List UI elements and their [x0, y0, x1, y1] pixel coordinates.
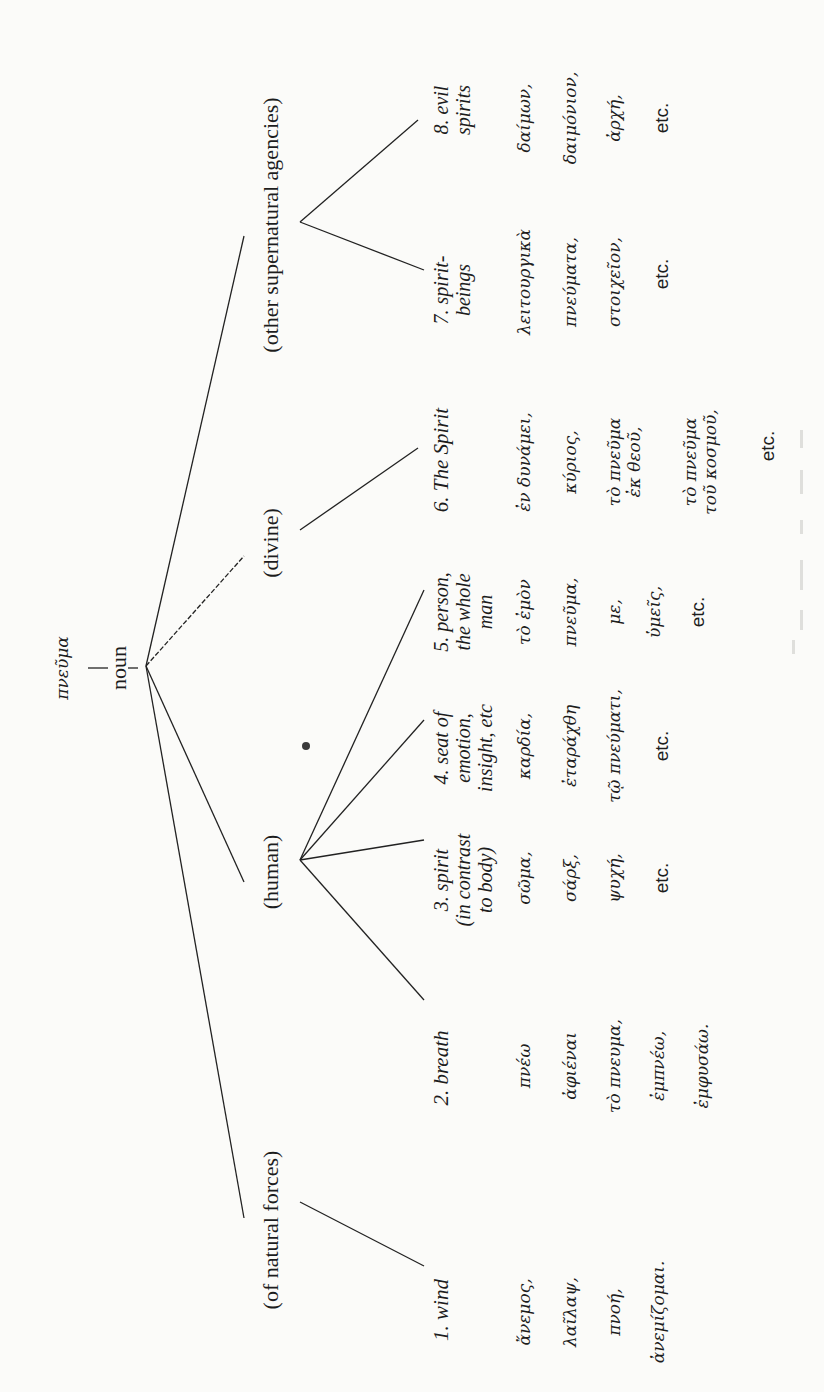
- word: ἀρχή,: [604, 94, 624, 141]
- word: ἀφιέναι: [560, 1032, 580, 1100]
- branch-sense-2: [300, 860, 424, 1000]
- word: πνεύματα,: [560, 237, 580, 328]
- word: δαίμων,: [514, 83, 534, 152]
- word: τὸ πνεῦμα: [680, 417, 700, 506]
- sense-3-words: σῶμα, σάρξ, ψυχή, etc.: [514, 851, 672, 904]
- word-etc: etc.: [651, 259, 672, 290]
- word: πνοή,: [604, 1288, 624, 1336]
- word: ἐμφυσάω.: [692, 1024, 712, 1109]
- word: κύριος,: [560, 430, 580, 494]
- group-divine: (divine): [258, 508, 283, 578]
- word: ψυχή,: [604, 853, 624, 903]
- sense-3-label-line-1: 3. spirit: [430, 848, 453, 912]
- branch-human: [146, 666, 244, 882]
- word: ἐν δυνάμει,: [514, 412, 534, 512]
- branch-sense-6: [300, 448, 418, 530]
- bleed-through-marks: [792, 430, 803, 654]
- branch-natural-forces: [146, 666, 244, 1218]
- sense-5-label-line-3: man: [474, 595, 496, 629]
- sense-6-words: ἐν δυνάμει, κύριος, τὸ πνεῦμα ἐκ θεοῦ, τ…: [514, 409, 778, 514]
- semantic-tree-diagram: πνεῦμα noun (of natural forces) (human) …: [0, 0, 824, 1392]
- word: ἐμπνέω,: [648, 1031, 668, 1101]
- sense-7-words: λειτουργικὰ πνεύματα, στοιχεῖον, etc.: [514, 228, 672, 336]
- branch-sense-8: [300, 120, 418, 222]
- group-natural-forces: (of natural forces): [258, 1151, 283, 1310]
- branch-sense-4: [300, 720, 424, 860]
- sense-5-label-line-1: 5. person,: [430, 572, 453, 651]
- sense-1-label: 1. wind: [429, 1279, 453, 1341]
- word: τὸ ἐμὸν: [514, 579, 534, 645]
- word: ἐταράχθη: [560, 704, 580, 787]
- word: τοῦ κοσμοῦ,: [700, 409, 720, 514]
- word: δαιμόνιον,: [560, 72, 580, 165]
- sense-7-label-line-2: beings: [452, 264, 475, 316]
- root-pos: noun: [106, 646, 131, 690]
- sense-3-label-line-2: (in contrast: [452, 833, 475, 926]
- sense-5-label-line-2: the whole: [452, 573, 474, 650]
- sense-8-words: δαίμων, δαιμόνιον, ἀρχή, etc.: [514, 72, 672, 165]
- sense-2-words: πνέω ἀφιέναι τὸ πνευμα, ἐμπνέω, ἐμφυσάω.: [514, 1019, 712, 1113]
- sense-1-words: ἄνεμος, λαῖλαψ, πνοή, ἀνεμίζομαι.: [514, 1261, 668, 1364]
- word: ἐκ θεοῦ,: [624, 426, 644, 497]
- word: πνέω: [514, 1044, 534, 1090]
- sense-8-label-line-2: spirits: [452, 85, 475, 135]
- sense-5-words: τὸ ἐμὸν πνεῦμα, με, ὑμεῖς, etc.: [514, 578, 708, 648]
- word: ὑμεῖς,: [644, 586, 664, 638]
- group-supernatural: (other supernatural agencies): [258, 97, 283, 352]
- branch-sense-7: [300, 222, 424, 270]
- word: καρδία,: [514, 713, 534, 780]
- sense-4-label-line-1: 4. seat of: [430, 709, 453, 784]
- branch-sense-1: [300, 1202, 424, 1266]
- sense-7-label-line-1: 7. spirit-: [430, 256, 453, 325]
- word: σῶμα,: [514, 851, 534, 904]
- word: στοιχεῖον,: [604, 237, 624, 327]
- scan-speck: [302, 742, 310, 750]
- branch-divine: [146, 556, 244, 666]
- tree-lines: [88, 120, 424, 1266]
- word: λειτουργικὰ: [514, 228, 534, 336]
- sense-3-label-line-3: to body): [474, 847, 497, 913]
- word: τὸ πνεῦμα: [604, 417, 624, 506]
- scanned-page: πνεῦμα noun (of natural forces) (human) …: [0, 0, 824, 1392]
- word: λαῖλαψ,: [560, 1277, 580, 1348]
- word: με,: [604, 599, 624, 625]
- sense-4-words: καρδία, ἐταράχθη τῷ πνεύματι, etc.: [514, 689, 672, 803]
- word-etc: etc.: [651, 103, 672, 134]
- word: τὸ πνευμα,: [604, 1019, 624, 1113]
- sense-8-label-line-1: 8. evil: [430, 85, 452, 134]
- word: πνεῦμα,: [560, 578, 580, 648]
- word: τῷ πνεύματι,: [604, 689, 624, 803]
- branch-sense-5: [300, 590, 424, 860]
- root-word: πνεῦμα: [52, 636, 72, 701]
- word: σάρξ,: [560, 854, 580, 902]
- group-labels: (of natural forces) (human) (divine) (ot…: [258, 97, 283, 1309]
- group-human: (human): [258, 835, 283, 910]
- sense-6-label: 6. The Spirit: [429, 407, 453, 513]
- sense-2-label: 2. breath: [429, 1030, 453, 1105]
- word-etc: etc.: [651, 731, 672, 762]
- branch-sense-3: [300, 840, 424, 860]
- sense-4-label-line-3: insight, etc: [474, 704, 497, 792]
- sense-labels: 1. wind 2. breath 3. spirit (in contrast…: [429, 85, 497, 1341]
- word-etc: etc.: [651, 863, 672, 894]
- word-etc: etc.: [687, 597, 708, 628]
- word: ἄνεμος,: [514, 1278, 534, 1345]
- word: ἀνεμίζομαι.: [648, 1261, 668, 1364]
- sense-4-label-line-2: emotion,: [452, 713, 474, 782]
- branch-supernatural: [146, 236, 244, 666]
- word-etc: etc.: [757, 431, 778, 462]
